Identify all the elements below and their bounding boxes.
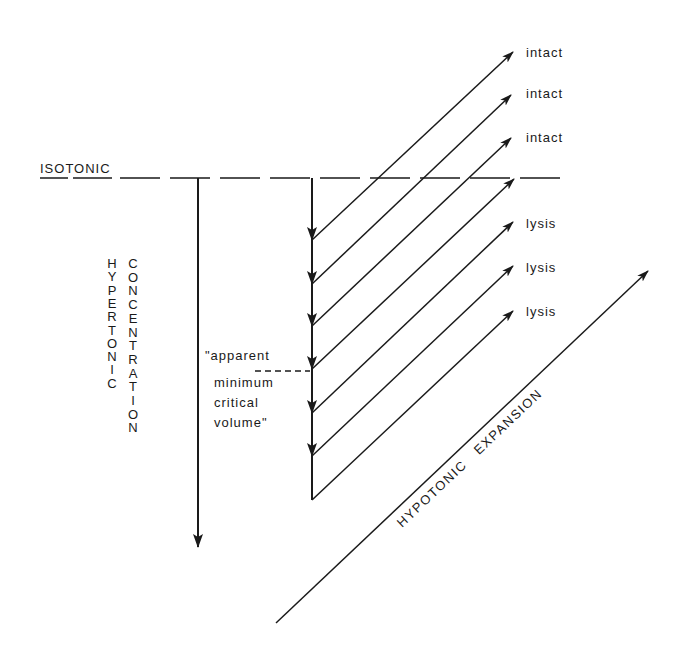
expansion-arrow-1 [312, 52, 513, 240]
outcome-label-2: intact [526, 86, 563, 101]
concentration-vertical-label: CONCENTRATION [128, 256, 138, 435]
osmotic-diagram: ISOTONIC HYPERTONIC CONCENTRATION intact… [0, 0, 686, 650]
isotonic-label: ISOTONIC [40, 161, 111, 176]
critical-volume-line-4: volume" [214, 415, 268, 430]
outcome-label-7: lysis [526, 304, 556, 319]
expansion-arrow-4 [312, 179, 514, 369]
hypotonic-expansion-label: HYPOTONIC EXPANSION [394, 386, 545, 530]
expansion-arrow-3 [312, 138, 511, 326]
outcome-label-3: intact [526, 130, 563, 145]
critical-volume-line-1: "apparent [205, 348, 270, 363]
outcome-label-6: lysis [526, 260, 556, 275]
expansion-arrows [312, 52, 514, 500]
hypotonic-expansion-arrow [276, 271, 648, 623]
critical-volume-line-2: minimum [214, 375, 274, 390]
expansion-arrow-2 [312, 95, 511, 284]
outcome-label-1: intact [526, 45, 563, 60]
critical-volume-line-3: critical [214, 395, 259, 410]
outcome-label-5: lysis [526, 216, 556, 231]
hypertonic-vertical-label: HYPERTONIC [107, 256, 117, 391]
expansion-arrow-5 [312, 222, 513, 413]
expansion-arrow-7 [312, 311, 513, 500]
